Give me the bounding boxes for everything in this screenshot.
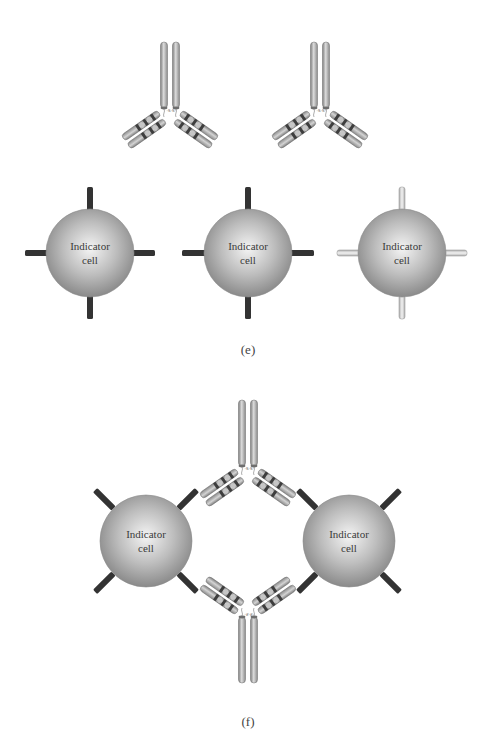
panel-label-f: (f) [242, 714, 255, 729]
cell-label: Indicator [228, 240, 268, 252]
panel-label-e: (e) [241, 342, 255, 357]
cell-label: Indicator [382, 240, 422, 252]
cell-label: Indicator [70, 240, 110, 252]
cell-label: cell [394, 254, 410, 266]
indicator-cell-left: Indicator cell [93, 488, 199, 594]
indicator-cell-2: Indicator cell [182, 187, 314, 319]
antibody-agglutination-diagram: -S-S- Indicator cell [0, 0, 488, 743]
cell-label: cell [138, 542, 154, 554]
indicator-cell-3: Indicator cell [337, 187, 467, 319]
free-antibody-2 [271, 42, 369, 149]
cell-label: cell [341, 542, 357, 554]
indicator-cell-1: Indicator cell [25, 187, 155, 319]
cell-label: Indicator [126, 528, 166, 540]
free-antibody-1 [121, 42, 219, 149]
bridging-antibody-bottom [199, 576, 297, 683]
panel-e: Indicator cell Indicator cell Indicator … [25, 42, 467, 357]
panel-f: Indicator cell Indicator cell (f) [93, 400, 402, 729]
cell-label: cell [240, 254, 256, 266]
cell-label: Indicator [329, 528, 369, 540]
bridging-antibody-top [199, 400, 297, 507]
cell-label: cell [82, 254, 98, 266]
indicator-cell-right: Indicator cell [296, 488, 402, 594]
